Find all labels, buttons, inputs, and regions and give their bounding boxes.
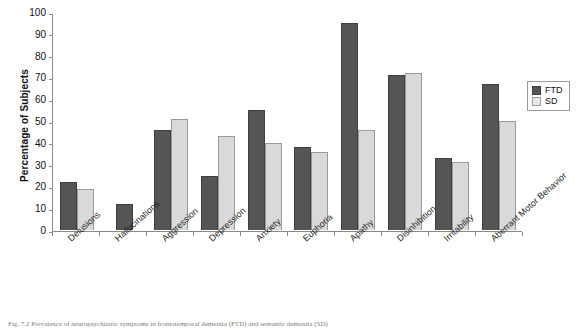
y-tick-mark [49, 123, 53, 124]
y-tick-mark [49, 210, 53, 211]
bar-ftd-irritability[interactable] [435, 158, 452, 230]
y-tick-label: 40 [35, 138, 46, 149]
bar-ftd-aberrant-motor-behavior[interactable] [482, 84, 499, 230]
bar-group [382, 14, 429, 230]
plot-area: 1009080706050403020100 [52, 14, 522, 232]
y-tick-label: 0 [40, 225, 46, 236]
figure-container: Percentage of Subjects 10090807060504030… [0, 0, 578, 331]
y-axis-title: Percentage of Subjects [19, 36, 30, 216]
bar-ftd-anxiety[interactable] [248, 110, 265, 230]
bar-group [101, 14, 148, 230]
bar-group [428, 14, 475, 230]
y-tick-label: 100 [29, 7, 46, 18]
bar-series-container [54, 14, 522, 230]
y-tick-label: 30 [35, 160, 46, 171]
y-tick-mark [49, 101, 53, 102]
legend-item-ftd[interactable]: FTD [532, 85, 563, 96]
figure-caption: Fig. 7.2 Prevalence of neuropsychiatric … [8, 320, 328, 331]
y-tick-label: 20 [35, 181, 46, 192]
bar-ftd-aggression[interactable] [154, 130, 171, 230]
y-tick-mark [49, 188, 53, 189]
bar-ftd-euphoria[interactable] [294, 147, 311, 230]
dark-gray-swatch-icon [532, 86, 541, 95]
y-tick-mark [49, 79, 53, 80]
y-tick-mark [49, 166, 53, 167]
bar-ftd-depression[interactable] [201, 176, 218, 231]
y-tick-label: 10 [35, 203, 46, 214]
bar-sd-apathy[interactable] [358, 130, 375, 230]
x-tick-mark [522, 232, 523, 236]
y-tick-label: 60 [35, 94, 46, 105]
y-tick-label: 80 [35, 51, 46, 62]
y-tick-mark [49, 57, 53, 58]
bar-group [241, 14, 288, 230]
x-axis-labels: DelusionsHallucinationsAggressionDepress… [52, 236, 522, 308]
legend-item-sd[interactable]: SD [532, 96, 563, 107]
legend-label-ftd: FTD [545, 85, 563, 96]
bar-group [335, 14, 382, 230]
bar-group [475, 14, 522, 230]
y-tick-label: 70 [35, 72, 46, 83]
chart-legend: FTD SD [527, 81, 570, 111]
bar-sd-disinhibition[interactable] [405, 73, 422, 230]
bar-ftd-disinhibition[interactable] [388, 75, 405, 230]
y-tick-label: 90 [35, 29, 46, 40]
bar-group [194, 14, 241, 230]
bar-group [288, 14, 335, 230]
light-gray-swatch-icon [532, 97, 541, 106]
bar-ftd-delusions[interactable] [60, 182, 77, 230]
bar-ftd-apathy[interactable] [341, 23, 358, 230]
y-tick-label: 50 [35, 116, 46, 127]
y-tick-mark [49, 14, 53, 15]
bar-group [54, 14, 101, 230]
legend-label-sd: SD [545, 96, 558, 107]
y-tick-mark [49, 144, 53, 145]
y-tick-mark [49, 35, 53, 36]
